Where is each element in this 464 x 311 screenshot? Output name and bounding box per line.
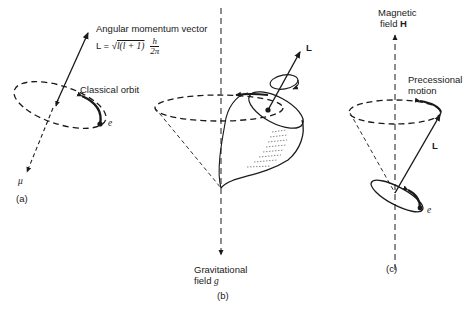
vector-label-c: L [432, 140, 438, 151]
spinning-top-body [221, 120, 303, 188]
caption-b: (b) [217, 290, 229, 301]
angular-momentum-formula: L = √l(l + 1) h 2π [96, 37, 159, 56]
electron-motion-arc [82, 96, 101, 124]
spinning-top-left-edge [219, 93, 248, 188]
caption-c: (c) [386, 263, 397, 274]
precessional-motion-label-line1: Precessional [408, 74, 462, 85]
top-shading [247, 130, 287, 167]
gravitational-field-label-line1: Gravitational [194, 264, 247, 275]
field-symbol-g: g [214, 276, 219, 286]
gravitational-field-label-line2: field g [194, 275, 219, 287]
panel-b [155, 8, 309, 255]
precession-arrow-b [236, 94, 268, 95]
electron-dot-c [418, 206, 423, 211]
angular-momentum-vector-b [268, 52, 300, 110]
electron-label-a: e [108, 118, 112, 129]
precession-arrow-c [420, 101, 441, 112]
magnetic-field-label-line1: Magnetic [378, 7, 417, 18]
precessional-motion-label-line2: motion [408, 85, 437, 96]
formula-fraction: h 2π [150, 37, 159, 56]
panel-c [349, 35, 441, 270]
electron-dot-a [97, 121, 102, 126]
electron-orbit-c [367, 174, 427, 217]
electron-label-c: e [427, 205, 431, 216]
top-face-ellipse [243, 84, 308, 135]
classical-orbit-label: Classical orbit [80, 84, 139, 95]
cone-left-edge-b [155, 108, 221, 188]
angular-momentum-vector-c [395, 115, 440, 193]
formula-denominator: 2π [150, 47, 159, 56]
magnetic-moment-label: μ [18, 176, 23, 187]
formula-root-body: l(l + 1) [117, 41, 145, 51]
field-symbol-h: H [400, 18, 407, 29]
vector-label-b: L [306, 42, 312, 53]
diagram-canvas: Angular momentum vector L = √l(l + 1) h … [0, 0, 464, 311]
angular-momentum-title: Angular momentum vector [96, 23, 207, 34]
field-text-c: field [380, 18, 400, 29]
caption-a: (a) [16, 193, 28, 204]
formula-lhs: L = [96, 40, 112, 51]
field-text-b: field [194, 275, 214, 286]
magnetic-field-label-line2: field H [380, 18, 407, 29]
